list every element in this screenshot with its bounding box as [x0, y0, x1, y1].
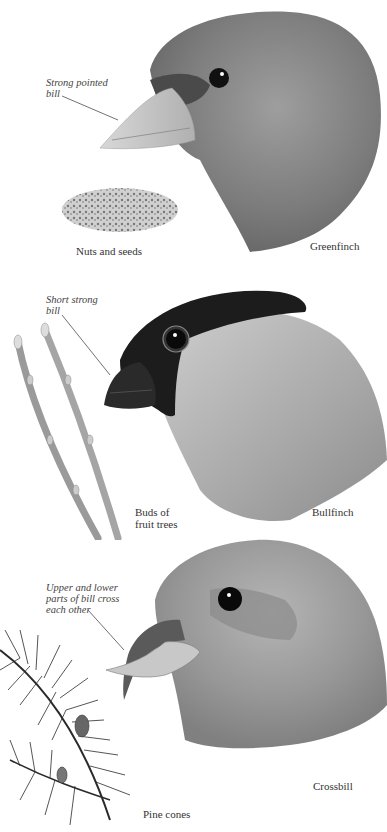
greenfinch-food-label: Nuts and seeds — [76, 245, 142, 257]
greenfinch-illustration — [0, 0, 387, 270]
crossbill-head — [155, 540, 387, 748]
greenfinch-callout: Strong pointed bill — [46, 77, 108, 99]
bullfinch-illustration — [0, 280, 387, 540]
pine-branch — [0, 630, 130, 825]
greenfinch-panel: Strong pointed bill Nuts and seeds Green… — [0, 0, 387, 270]
crossbill-panel: Upper and lower parts of bill cross each… — [0, 530, 387, 832]
bullfinch-name-label: Bullfinch — [312, 506, 354, 518]
pine-cone — [75, 715, 89, 737]
crossbill-eye — [218, 587, 242, 611]
greenfinch-name-label: Greenfinch — [310, 240, 359, 252]
bullfinch-callout: Short strong bill — [46, 294, 98, 316]
bullfinch-eye — [166, 329, 186, 349]
crossbill-callout: Upper and lower parts of bill cross each… — [46, 582, 119, 615]
pine-cone — [57, 767, 67, 783]
bullfinch-panel: Short strong bill Buds of fruit trees Bu… — [0, 280, 387, 540]
crossbill-food-label: Pine cones — [143, 808, 190, 820]
crossbill-name-label: Crossbill — [313, 780, 353, 792]
seed-pile — [62, 188, 178, 232]
bullfinch-food-label: Buds of fruit trees — [135, 506, 177, 530]
greenfinch-eye — [209, 68, 229, 88]
